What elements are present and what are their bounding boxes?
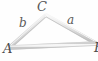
- vertex-label-c: C: [37, 0, 47, 13]
- vertex-label-a: A: [3, 42, 12, 55]
- side-c-stroke: [10, 42, 97, 50]
- vertex-label-b: B: [94, 41, 98, 54]
- triangle-graphic: [0, 0, 98, 61]
- side-b-stroke: [10, 14, 46, 49]
- triangle-figure: C b a A B: [0, 0, 98, 61]
- side-label-b: b: [19, 17, 27, 29]
- side-label-a: a: [67, 14, 74, 26]
